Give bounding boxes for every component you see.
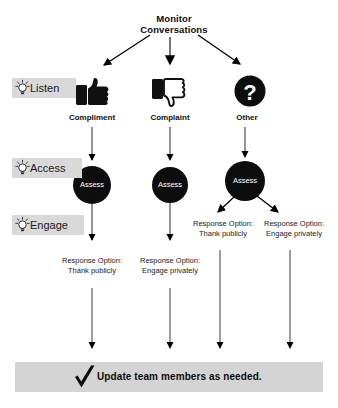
lightbulb-icon — [14, 159, 31, 177]
response-option-line2: Engage privately — [131, 266, 209, 276]
checkmark-icon — [74, 364, 96, 390]
assess-label-other: Assess — [223, 176, 267, 185]
page-title-line1: Monitor — [126, 13, 222, 24]
lightbulb-icon — [14, 216, 31, 234]
question-mark-icon: ? — [235, 76, 266, 107]
response-option-other-thank: Response Option: Thank publicly — [184, 219, 262, 238]
response-option-compliment: Response Option: Thank publicly — [53, 256, 131, 275]
lightbulb-icon — [14, 79, 31, 97]
diagram-canvas: ? — [0, 0, 338, 408]
response-option-line2: Thank publicly — [184, 229, 262, 239]
stage-label-engage: Engage — [12, 215, 84, 235]
branch-arrow-left — [104, 35, 150, 65]
response-option-line1: Response Option: — [184, 219, 262, 229]
assess-label-complaint: Assess — [148, 180, 192, 189]
thumbs-down-icon — [152, 79, 184, 106]
response-option-line1: Response Option: — [131, 256, 209, 266]
response-option-other-engage: Response Option: Engage privately — [255, 219, 333, 238]
stage-label-access: Access — [12, 158, 82, 178]
stage-label-text: Access — [30, 162, 65, 174]
response-option-line1: Response Option: — [53, 256, 131, 266]
stage-label-text: Listen — [30, 82, 59, 94]
response-option-complaint: Response Option: Engage privately — [131, 256, 209, 275]
stage-label-text: Engage — [30, 219, 68, 231]
page-title: Monitor Conversations — [126, 13, 222, 35]
stage-label-listen: Listen — [12, 78, 76, 98]
thumbs-up-icon — [76, 78, 108, 105]
footer-text: Update team members as needed. — [97, 370, 262, 384]
response-option-line2: Thank publicly — [53, 266, 131, 276]
category-caption-other: Other — [202, 113, 292, 123]
assess-label-compliment: Assess — [70, 180, 114, 189]
flow-arrow-assess3-left — [218, 197, 234, 212]
diagram-vector-layer: ? — [0, 0, 338, 408]
page-title-line2: Conversations — [126, 24, 222, 35]
response-option-line1: Response Option: — [255, 219, 333, 229]
branch-arrow-right — [198, 35, 240, 64]
svg-text:?: ? — [243, 80, 256, 105]
response-option-line2: Engage privately — [255, 229, 333, 239]
flow-arrow-assess3-right — [257, 196, 278, 212]
category-caption-compliment: Compliment — [47, 113, 137, 123]
